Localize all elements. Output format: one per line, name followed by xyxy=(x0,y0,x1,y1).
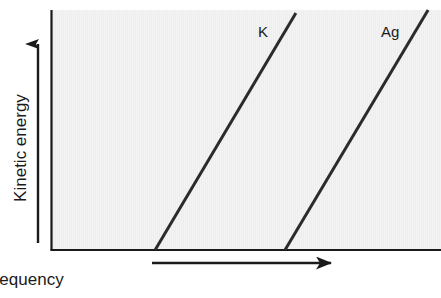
x-axis-label: Frequency xyxy=(0,270,64,290)
series-label-K: K xyxy=(258,24,268,39)
photoelectric-effect-chart: K Ag Frequency Kinetic energy xyxy=(0,0,441,298)
plot-area-background xyxy=(51,10,441,250)
y-axis-label: Kinetic energy xyxy=(8,28,34,268)
series-label-Ag: Ag xyxy=(381,24,399,39)
x-axis-label-container: Frequency xyxy=(0,270,441,290)
